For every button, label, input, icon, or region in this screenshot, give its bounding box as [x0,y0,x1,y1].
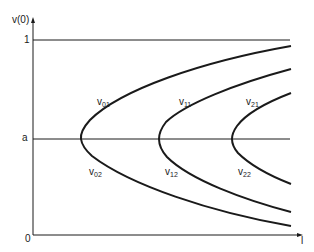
bifurcation-diagram [0,0,314,252]
curve-label-v01: v01 [97,97,110,108]
y-axis-label: v(0) [12,15,29,25]
y-tick-a: a [22,133,28,143]
curve-label-v21: v21 [246,97,259,108]
curve-label-v12: v12 [165,167,178,178]
x-axis-label: l [301,236,303,246]
curve-v11-v12 [159,69,291,212]
y-axis-arrowhead [31,17,35,23]
origin-label: 0 [25,234,31,244]
curve-label-v11: v11 [179,97,191,108]
curve-label-v22: v22 [238,167,251,178]
curve-v01-v02 [81,46,291,226]
y-tick-one: 1 [24,35,30,45]
curve-label-v02: v02 [89,167,102,178]
